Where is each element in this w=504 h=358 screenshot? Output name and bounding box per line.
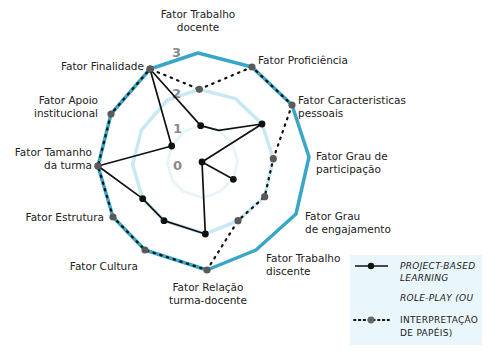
axis-label: Fator Tamanhoda turma <box>15 146 92 171</box>
data-point <box>203 266 210 273</box>
data-point <box>141 246 148 253</box>
axis-label: Fator Grau departicipação <box>316 150 388 175</box>
scale-ticks: 0 1 2 3 <box>172 45 182 173</box>
radar-chart: 0 1 2 3 Fator TrabalhodocenteFator Profi… <box>0 0 504 358</box>
legend-label-pbl-2: LEARNING <box>400 273 449 283</box>
data-point <box>161 217 168 224</box>
tick-1: 1 <box>173 121 182 136</box>
axis-label: Fator Proficiência <box>258 54 348 66</box>
data-point <box>261 193 268 200</box>
data-point <box>259 121 266 128</box>
data-point <box>146 65 153 72</box>
data-point <box>94 162 101 169</box>
legend-label-rp-2: INTERPRETAÇÃO <box>400 315 478 325</box>
legend-item-project-based: PROJECT-BASED LEARNING <box>355 261 475 283</box>
axis-label: Fator Trabalhodocente <box>161 8 235 33</box>
axis-label: Fator Cultura <box>70 260 138 272</box>
tick-3: 3 <box>172 45 181 60</box>
legend-item-role-play: ROLE-PLAY (OU INTERPRETAÇÃO DE PAPÉIS) <box>354 293 478 338</box>
axis-label: Fator Trabalhodiscente <box>266 252 340 277</box>
data-point <box>197 122 204 129</box>
axis-label: Fator Graude engajamento <box>305 210 391 235</box>
legend: PROJECT-BASED LEARNING ROLE-PLAY (OU INT… <box>354 261 478 338</box>
axis-label: Fator Estrutura <box>26 211 104 223</box>
legend-label-rp-3: DE PAPÉIS) <box>400 327 452 338</box>
data-point <box>270 155 277 162</box>
legend-label-rp-1: ROLE-PLAY (OU <box>400 293 473 303</box>
data-point <box>109 213 116 220</box>
data-point <box>230 176 237 183</box>
axis-label: Fator Apoioinstitucional <box>34 94 98 119</box>
data-point <box>139 195 146 202</box>
axis-label: Fator Caracteristicaspessoais <box>298 94 406 119</box>
legend-label-pbl-1: PROJECT-BASED <box>400 261 475 271</box>
axis-label: Fator Relaçãoturma-docente <box>169 281 247 306</box>
data-point <box>199 159 206 166</box>
data-point <box>234 217 241 224</box>
data-point <box>248 63 255 70</box>
data-point <box>196 86 203 93</box>
axis-label: Fator Finalidade <box>61 60 144 72</box>
tick-0: 0 <box>173 158 182 173</box>
data-point <box>107 110 114 117</box>
data-point <box>168 143 175 150</box>
data-point <box>288 101 295 108</box>
data-point <box>202 231 209 238</box>
